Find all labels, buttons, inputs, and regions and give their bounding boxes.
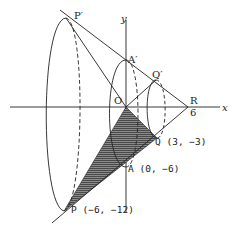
label-R: R bbox=[190, 95, 198, 106]
label-P-prime: P′ bbox=[74, 10, 84, 21]
line-O-Qprime bbox=[126, 80, 156, 107]
large-ellipse-back-dashed bbox=[64, 18, 80, 211]
label-A-prime: A′ bbox=[127, 54, 138, 65]
label-A: A (0, −6) bbox=[128, 163, 179, 174]
label-P: P (−6, −12) bbox=[71, 204, 134, 215]
y-axis-label: y bbox=[120, 13, 127, 24]
x-axis-label: x bbox=[222, 102, 228, 113]
solid-of-revolution-diagram: y x O P′ A′ Q′ R 6 Q (3, −3) A (0, −6) P… bbox=[0, 0, 232, 226]
line-Pprime-R bbox=[60, 10, 188, 107]
label-Q-prime: Q′ bbox=[152, 69, 163, 80]
line-Pprime-O bbox=[66, 18, 126, 107]
origin-label: O bbox=[114, 95, 122, 106]
label-Q: Q (3, −3) bbox=[155, 136, 206, 147]
large-ellipse-front bbox=[46, 18, 66, 211]
label-R-tick-6: 6 bbox=[190, 107, 196, 118]
